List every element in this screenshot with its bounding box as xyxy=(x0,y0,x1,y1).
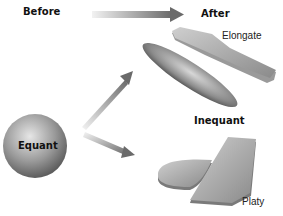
arrow-to-elongate-icon xyxy=(82,71,133,130)
after-label: After xyxy=(201,8,230,19)
before-label: Before xyxy=(23,6,60,17)
equant-label: Equant xyxy=(18,140,58,151)
inequant-label: Inequant xyxy=(194,115,245,126)
elongate-label: Elongate xyxy=(222,30,261,41)
platy-label: Platy xyxy=(242,196,264,207)
arrow-before-to-after-icon xyxy=(92,7,184,22)
arrow-to-platy-icon xyxy=(83,132,135,158)
